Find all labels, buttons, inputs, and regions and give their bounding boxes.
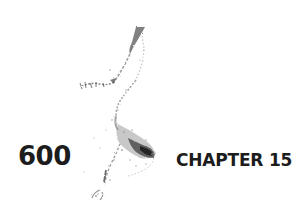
chapter-running-head: CHAPTER 15 [176, 149, 292, 171]
page-number: 600 [18, 141, 71, 171]
book-page: 600 CHAPTER 15 [0, 0, 308, 217]
ink-sketch-illustration-icon [70, 20, 170, 200]
